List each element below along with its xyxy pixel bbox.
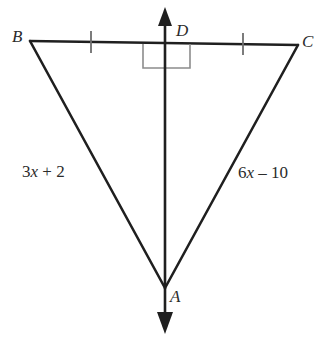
side-label-right: 6x – 10 [238,164,288,181]
side-right-coefficient: 6 [238,163,247,182]
side-left-variable: x [31,162,39,181]
side-label-left: 3x + 2 [22,163,65,180]
side-right-constant: 10 [271,163,288,182]
side-right-variable: x [247,163,255,182]
vertex-label-d: D [176,22,188,39]
side-left-coefficient: 3 [22,162,31,181]
vertex-label-b: B [12,28,22,45]
geometry-diagram: B C D A 3x + 2 6x – 10 [0,0,325,342]
arrow-head-up-icon [158,7,172,26]
side-left-constant: 2 [56,162,65,181]
side-left-operator: + [42,162,52,181]
side-right-operator: – [258,163,267,182]
vertex-label-c: C [302,33,313,50]
vertex-label-a: A [170,288,180,305]
arrow-head-down-icon [157,312,173,334]
right-angle-square [143,44,190,68]
